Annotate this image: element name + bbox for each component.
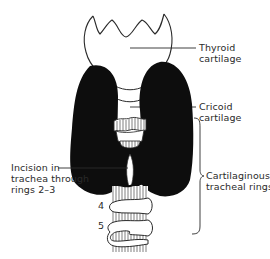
label-cricoid-line2: cartilage	[199, 112, 242, 123]
label-thyroid-line1: Thyroid	[199, 42, 242, 53]
label-incision-line1: Incision in	[11, 162, 89, 173]
diagram-canvas: Thyroid cartilage Cricoid cartilage Inci…	[0, 0, 270, 259]
tracheal-ring-2	[120, 141, 140, 148]
label-thyroid-line2: cartilage	[199, 53, 242, 64]
label-cricoid-line1: Cricoid	[199, 101, 242, 112]
tracheal-rings-brace	[192, 118, 204, 234]
label-incision-line2: trachea through	[11, 173, 89, 184]
label-thyroid-cartilage: Thyroid cartilage	[199, 42, 242, 64]
label-rings-line2: tracheal rings	[206, 181, 270, 192]
label-cricoid-cartilage: Cricoid cartilage	[199, 101, 242, 123]
label-tracheal-rings: Cartilaginous tracheal rings	[206, 170, 270, 192]
tracheal-ring-1	[114, 117, 146, 131]
ring-number-5: 5	[98, 220, 104, 231]
label-rings-line1: Cartilaginous	[206, 170, 270, 181]
ring-number-4: 4	[98, 200, 104, 211]
label-incision: Incision in trachea through rings 2–3	[11, 162, 89, 195]
anatomy-illustration	[0, 0, 270, 259]
label-incision-line3: rings 2–3	[11, 184, 89, 195]
